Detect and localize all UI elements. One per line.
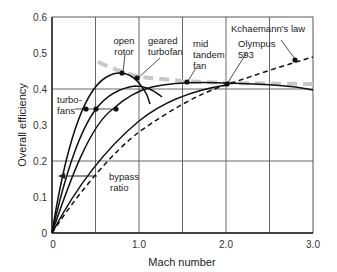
y-tick-0.3: 0.3 (33, 120, 47, 131)
x-tick-0: 0 (50, 239, 56, 250)
y-tick-0.4: 0.4 (33, 84, 47, 95)
turbofans-point-1 (83, 106, 88, 111)
y-axis-label: Overall efficiency (16, 83, 28, 167)
mid-tandem-fan-label-line2: tandem (193, 49, 225, 60)
turbofans-point-3 (113, 106, 118, 111)
kuchemann-law-point (292, 57, 297, 62)
y-tick-labels: 0.6 0.5 0.4 0.3 0.2 0.1 0 (33, 12, 47, 239)
bypass-ratio-label-line1: bypass (109, 171, 139, 182)
leader-lines (75, 40, 295, 109)
turbofans-label-line2: fans (57, 105, 75, 116)
y-tick-0: 0 (41, 228, 47, 239)
bypass-ratio-arrow (58, 173, 97, 179)
x-tick-3.0: 3.0 (306, 239, 320, 250)
y-tick-0.2: 0.2 (33, 156, 47, 167)
olympus-label-line1: Olympus (238, 38, 276, 49)
olympus-593-point (224, 81, 229, 86)
open-rotor-point (119, 70, 124, 75)
kuchemann-law-label: Kchaemann's law (231, 23, 305, 34)
mid-tandem-fan-point (184, 79, 189, 84)
efficiency-chart: 0.6 0.5 0.4 0.3 0.2 0.1 0 0 1.0 2.0 3.0 … (0, 0, 337, 272)
turbofans-point-2 (93, 106, 98, 111)
y-tick-0.5: 0.5 (33, 48, 47, 59)
x-tick-labels: 0 1.0 2.0 3.0 (50, 239, 320, 250)
x-axis-label: Mach number (148, 256, 216, 268)
turbofans-label-line1: turbo- (57, 94, 82, 105)
x-tick-2.0: 2.0 (219, 239, 233, 250)
bypass-ratio-label-line2: ratio (110, 182, 128, 193)
x-tick-1.0: 1.0 (132, 239, 146, 250)
geared-turbofan-point (134, 75, 139, 80)
y-tick-0.1: 0.1 (33, 192, 47, 203)
geared-turbofan-label-line2: turbofan (148, 46, 183, 57)
olympus-label-line2: 593 (238, 49, 254, 60)
open-rotor-label-line2: rotor (114, 46, 134, 57)
mid-tandem-fan-label-line1: mid (193, 38, 208, 49)
mid-tandem-fan-label-line3: fan (193, 60, 206, 71)
open-rotor-label-line1: open (113, 35, 134, 46)
y-tick-0.6: 0.6 (33, 12, 47, 23)
geared-turbofan-label-line1: geared (148, 35, 178, 46)
